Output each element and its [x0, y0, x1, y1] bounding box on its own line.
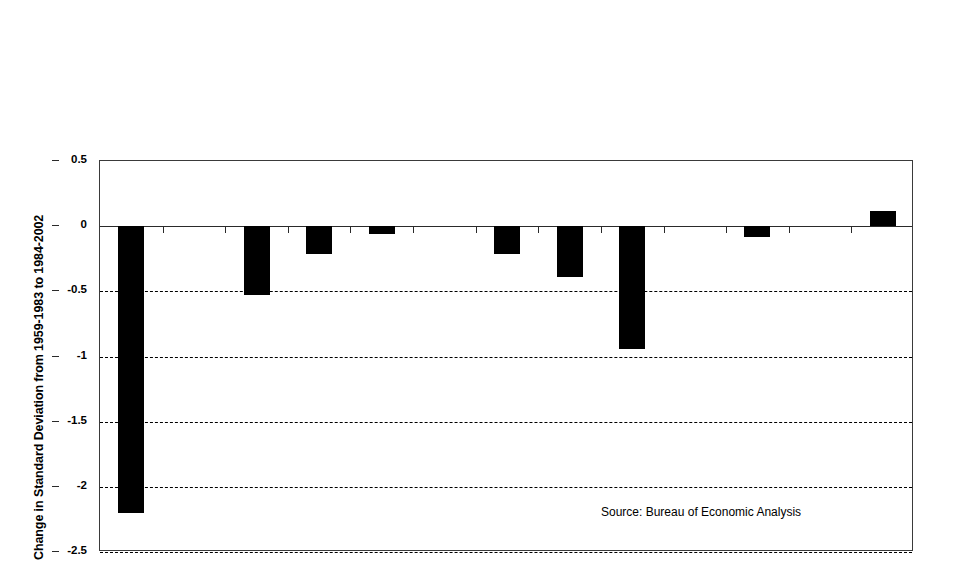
gridline [100, 487, 912, 488]
y-tick-label: -2.5 [47, 545, 87, 556]
x-tick-mark [601, 226, 602, 233]
y-tick-label: -0.5 [47, 284, 87, 295]
bar-nonresidential-fixed[interactable] [494, 226, 520, 253]
y-tick-label: -2 [47, 480, 87, 491]
x-tick-mark [789, 226, 790, 233]
gridline [100, 291, 912, 292]
bar-services[interactable] [369, 226, 395, 234]
gridline [100, 552, 912, 553]
bar-chart-figure: Change in Standard Deviation from 1959-1… [0, 0, 975, 587]
x-tick-mark [350, 226, 351, 233]
bar-inventory[interactable] [619, 226, 645, 349]
x-tick-mark [163, 226, 164, 233]
gridline [100, 422, 912, 423]
x-tick-mark [413, 226, 414, 233]
x-tick-mark [288, 226, 289, 233]
plot-inner-surface [100, 161, 912, 550]
bar-residential[interactable] [557, 226, 583, 277]
y-tick-label: 0 [47, 219, 87, 230]
source-note: Source: Bureau of Economic Analysis [601, 505, 801, 519]
bar-durables[interactable] [244, 226, 270, 295]
x-tick-mark [538, 226, 539, 233]
x-tick-mark [664, 226, 665, 233]
x-tick-mark [726, 226, 727, 233]
y-axis-tick-group: 0.50-0.5-1-1.5-2-2.5 [52, 160, 99, 551]
plot-area [99, 160, 913, 551]
x-tick-mark [225, 226, 226, 233]
bar-government[interactable] [744, 226, 770, 236]
y-tick-label: -1 [47, 350, 87, 361]
gridline [100, 357, 912, 358]
bar-nondurables[interactable] [306, 226, 332, 253]
bar-net-exports[interactable] [870, 211, 896, 227]
bar-total[interactable] [118, 226, 144, 513]
x-tick-mark [476, 226, 477, 233]
x-tick-mark [851, 226, 852, 233]
x-axis-label-group: TotalDurablesNondurablesServicesNonresid… [0, 0, 975, 160]
y-tick-label: -1.5 [47, 415, 87, 426]
